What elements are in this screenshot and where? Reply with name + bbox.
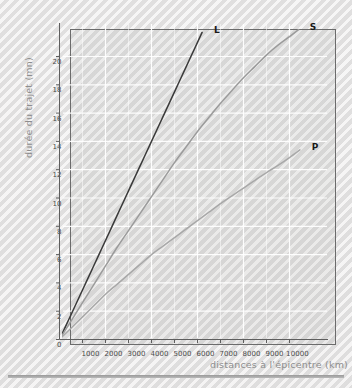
seismic-wave-travel-time-figure: durée du trajet (mn) distances à l'épice… (0, 0, 352, 388)
footer-rule (8, 375, 344, 378)
figure-paper: durée du trajet (mn) distances à l'épice… (8, 6, 344, 374)
x-axis-title: distances à l'épicentre (km) (158, 359, 348, 370)
y-tick-label: 18 (8, 86, 62, 94)
y-tick-label: 2 (8, 313, 62, 321)
series-label-l: L (214, 25, 220, 35)
y-tick-label: 16 (8, 115, 62, 123)
x-tick-label: 10000 (282, 350, 314, 358)
series-label-s: S (310, 22, 316, 32)
y-tick-label: 10 (8, 200, 62, 208)
y-tick-label: 12 (8, 171, 62, 179)
y-tick-label: 8 (8, 228, 62, 236)
y-tick-label: 6 (8, 256, 62, 264)
plot-area (70, 29, 336, 345)
series-label-p: P (312, 142, 319, 152)
y-tick-label: 0 (8, 341, 62, 349)
y-tick-label: 20 (8, 58, 62, 66)
y-tick-label: 4 (8, 284, 62, 292)
y-tick-label: 14 (8, 143, 62, 151)
